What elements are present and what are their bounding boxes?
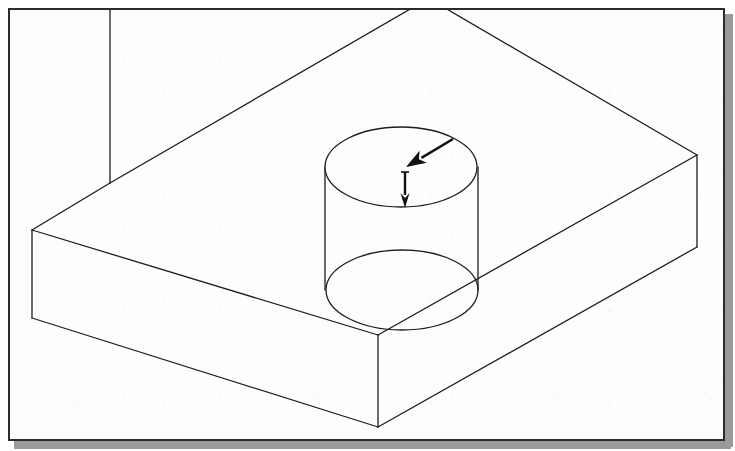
cylinder-bottom-ellipse (326, 250, 478, 330)
top-face-front-left-edge (32, 230, 378, 335)
block-bottom-edges (32, 247, 697, 427)
isometric-drawing-canvas (8, 8, 725, 441)
bottom-front-right-edge (378, 247, 697, 427)
top-face-back-right-edge (445, 8, 697, 155)
screenshot-root (0, 0, 735, 451)
cylindrical-boss (325, 127, 478, 330)
bottom-front-left-edge (32, 318, 378, 427)
cylinder-top-ellipse (325, 127, 477, 207)
notch-lower-diagonal-edge (32, 183, 110, 230)
figure-frame (8, 8, 725, 441)
